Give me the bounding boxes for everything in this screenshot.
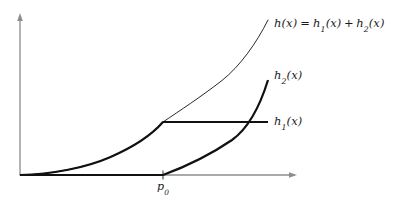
y-axis-arrowhead: [17, 13, 23, 21]
math-figure: h(x)=h1(x)+h2(x) h2(x) h1(x) p0: [0, 0, 399, 202]
curve-h1: [20, 122, 268, 175]
h-sum-equals: =: [297, 16, 313, 30]
h2-sub: 2: [282, 77, 287, 86]
h1-sub: 1: [282, 123, 287, 132]
h-sum-name: h: [274, 16, 282, 30]
figure-canvas: [0, 0, 399, 202]
x-axis-arrowhead: [289, 172, 297, 178]
curve-h2: [20, 80, 268, 175]
curve-h-sum: [20, 20, 268, 175]
h1-arg: (x): [287, 114, 303, 128]
curve-label-h2: h2(x): [274, 70, 302, 82]
h-sum-term1-sub: 1: [321, 25, 326, 34]
h-sum-term1-arg: (x): [326, 16, 342, 30]
curve-label-h-sum: h(x)=h1(x)+h2(x): [274, 18, 385, 30]
h1-name: h: [274, 114, 282, 128]
h-sum-term1-name: h: [313, 16, 321, 30]
x-axis-tick-label-p0: p0: [157, 181, 169, 192]
h-sum-term2-name: h: [356, 16, 364, 30]
h-sum-arg: (x): [282, 16, 298, 30]
h2-arg: (x): [287, 68, 303, 82]
curve-label-h1: h1(x): [274, 116, 302, 128]
h-sum-plus: +: [341, 16, 356, 30]
p0-sub: 0: [164, 188, 169, 197]
h2-name: h: [274, 68, 282, 82]
h-sum-term2-sub: 2: [364, 25, 369, 34]
axes-group: [17, 13, 297, 180]
h-sum-term2-arg: (x): [369, 16, 385, 30]
